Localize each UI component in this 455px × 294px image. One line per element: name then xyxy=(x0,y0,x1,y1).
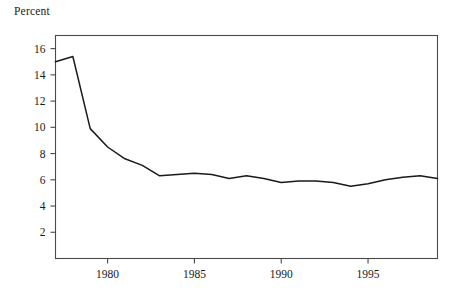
y-tick-label: 8 xyxy=(40,148,46,160)
plot-frame xyxy=(56,36,438,259)
x-axis-ticks xyxy=(108,259,368,264)
y-axis-tick-labels: 246810121416 xyxy=(34,43,46,239)
x-tick-label: 1990 xyxy=(270,268,293,280)
y-tick-label: 10 xyxy=(34,121,46,133)
x-tick-label: 1985 xyxy=(183,268,206,280)
y-tick-label: 12 xyxy=(34,95,46,107)
series-line xyxy=(56,56,438,186)
y-tick-label: 4 xyxy=(40,200,46,212)
x-tick-label: 1995 xyxy=(357,268,380,280)
y-tick-label: 14 xyxy=(34,69,46,81)
chart-figure: Percent 246810121416 1980198519901995 xyxy=(0,0,455,294)
y-tick-label: 16 xyxy=(34,43,46,55)
x-tick-label: 1980 xyxy=(96,268,119,280)
y-axis-ticks xyxy=(51,49,56,233)
y-tick-label: 6 xyxy=(40,174,46,186)
data-series-group xyxy=(56,56,438,186)
y-tick-label: 2 xyxy=(40,226,46,238)
x-axis-tick-labels: 1980198519901995 xyxy=(96,268,380,280)
plot-border xyxy=(56,36,438,259)
line-chart-plot: 246810121416 1980198519901995 xyxy=(0,0,455,294)
